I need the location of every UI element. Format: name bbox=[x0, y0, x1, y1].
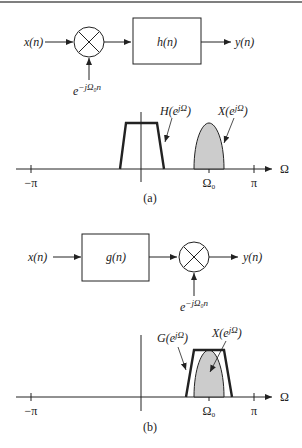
lowpass-filter-shape bbox=[120, 123, 164, 169]
tick-neg-pi-b: −π bbox=[25, 404, 38, 418]
filter-label-g: g(n) bbox=[106, 250, 126, 264]
filter-label-h: h(n) bbox=[157, 35, 177, 49]
output-label-a: y(n) bbox=[234, 35, 254, 49]
input-label-a: x(n) bbox=[23, 35, 43, 49]
modulator-label-a: e−jΩ₀n bbox=[73, 82, 102, 98]
caption-b: (b) bbox=[143, 420, 157, 434]
panel-b-spectrum: Ω −π Ω₀ π G(ejΩ) X(ejΩ) bbox=[16, 325, 289, 418]
x-spectrum-label-a: X(ejΩ) bbox=[217, 103, 248, 118]
h-spectrum-label: H(ejΩ) bbox=[159, 103, 191, 118]
panel-b-block-diagram: x(n) g(n) e−jΩ₀n y(n) bbox=[27, 234, 262, 314]
signal-spectrum-shape-b bbox=[194, 350, 224, 397]
multiplier-icon-b bbox=[179, 242, 209, 272]
tick-omega0-b: Ω₀ bbox=[202, 404, 215, 418]
caption-a: (a) bbox=[143, 191, 156, 205]
tick-pi-b: π bbox=[251, 404, 257, 418]
figure-canvas: x(n) e−jΩ₀n h(n) y(n) Ω −π Ω₀ π H(ejΩ) bbox=[0, 0, 302, 448]
omega-axis-label-b: Ω bbox=[280, 390, 289, 404]
tick-neg-pi-a: −π bbox=[25, 176, 38, 190]
tick-omega0-a: Ω₀ bbox=[202, 176, 215, 190]
tick-pi-a: π bbox=[251, 176, 257, 190]
signal-spectrum-shape-a bbox=[194, 123, 224, 169]
output-label-b: y(n) bbox=[242, 250, 262, 264]
multiplier-icon bbox=[74, 27, 104, 57]
input-label-b: x(n) bbox=[27, 250, 47, 264]
panel-a-block-diagram: x(n) e−jΩ₀n h(n) y(n) bbox=[23, 18, 254, 98]
modulator-label-b: e−jΩ₀n bbox=[180, 298, 209, 314]
x-spectrum-label-b: X(ejΩ) bbox=[211, 325, 242, 340]
panel-a-spectrum: Ω −π Ω₀ π H(ejΩ) X(ejΩ) bbox=[16, 103, 289, 190]
g-spectrum-label: G(ejΩ) bbox=[157, 330, 188, 345]
omega-axis-label-a: Ω bbox=[280, 162, 289, 176]
